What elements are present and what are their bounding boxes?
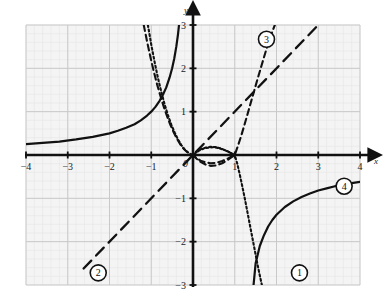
curve-tag-1: 1 [291,265,307,281]
curve-tag-2: 2 [90,265,106,281]
curve-tag-label: 3 [264,34,269,45]
y-tick-label: 1 [181,106,186,117]
y-tick-label: −1 [175,193,186,204]
x-tick-label: −1 [146,161,157,172]
coordinate-plot: −4−3−2−11234321−1−2−30 xy 1234 [0,0,389,302]
y-axis-name: y [183,5,188,15]
curve-tag-label: 2 [96,267,101,278]
curve-tag-label: 4 [342,181,347,192]
graph-figure: −4−3−2−11234321−1−2−30 xy 1234 [0,0,389,302]
curve-tag-4: 4 [336,178,352,194]
y-tick-label: −3 [175,280,186,291]
curve-tag-label: 1 [297,267,302,278]
y-tick-label: 3 [181,20,186,31]
x-tick-label: 2 [274,161,279,172]
y-tick-label: −2 [175,236,186,247]
x-tick-label: 4 [358,161,363,172]
x-tick-label: −3 [62,161,73,172]
x-tick-label: −2 [104,161,115,172]
curve-tag-3: 3 [258,31,274,47]
x-axis-name: x [373,156,378,166]
x-tick-label: 3 [316,161,321,172]
x-tick-label: −4 [21,161,32,172]
y-tick-label: 2 [181,63,186,74]
